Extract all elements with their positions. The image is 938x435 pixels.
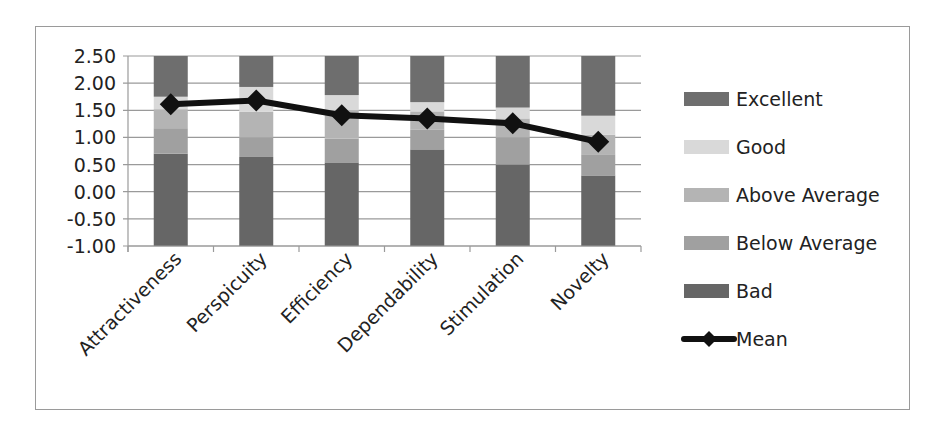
legend-label: Below Average <box>736 232 877 254</box>
bar-attractiveness <box>154 56 188 246</box>
bar-segment-excellent <box>239 56 273 87</box>
y-axis-tick-labels: 2.502.001.501.000.500.00-0.50-1.00 <box>67 45 116 257</box>
mean-line <box>171 101 599 142</box>
gridlines <box>123 56 641 252</box>
bar-segment-excellent <box>496 56 530 108</box>
legend-swatch-icon <box>684 140 729 154</box>
y-tick-label: 1.50 <box>74 99 116 121</box>
bar-efficiency <box>325 56 359 246</box>
bar-segment-below-average <box>325 139 359 163</box>
bar-segment-excellent <box>581 56 615 116</box>
chart-legend: ExcellentGoodAbove AverageBelow AverageB… <box>684 88 880 350</box>
category-label: Efficiency <box>276 247 356 327</box>
bar-segment-below-average <box>239 137 273 157</box>
chart-canvas: 2.502.001.501.000.500.00-0.50-1.00 Attra… <box>36 27 911 411</box>
y-tick-label: -0.50 <box>67 208 116 230</box>
category-label: Attractiveness <box>73 247 185 359</box>
y-tick-label: 1.00 <box>74 126 116 148</box>
bar-segment-bad <box>581 175 615 246</box>
bar-segment-below-average <box>496 137 530 164</box>
bar-perspicuity <box>239 56 273 246</box>
legend-item-good: Good <box>684 136 786 158</box>
bar-dependability <box>410 56 444 246</box>
legend-label: Excellent <box>736 88 823 110</box>
legend-label: Mean <box>736 328 788 350</box>
legend-label: Above Average <box>736 184 880 206</box>
bar-segment-excellent <box>154 56 188 97</box>
y-tick-label: 2.00 <box>74 72 116 94</box>
bar-stimulation <box>496 56 530 246</box>
y-tick-label: -1.00 <box>67 235 116 257</box>
legend-label: Bad <box>736 280 773 302</box>
category-label: Novelty <box>546 247 613 314</box>
x-axis <box>128 246 641 252</box>
mean-line-series <box>160 90 610 153</box>
bar-segment-above-average <box>239 112 273 138</box>
legend-label: Good <box>736 136 786 158</box>
legend-swatch-icon <box>684 284 729 298</box>
bar-segment-below-average <box>154 128 188 154</box>
legend-diamond-icon <box>701 331 717 347</box>
bar-segment-below-average <box>410 130 444 150</box>
category-label: Perspicuity <box>182 247 271 336</box>
legend-swatch-icon <box>684 236 729 250</box>
stacked-bars <box>154 56 616 246</box>
legend-swatch-icon <box>684 92 729 106</box>
legend-item-excellent: Excellent <box>684 88 823 110</box>
bar-segment-bad <box>325 162 359 246</box>
y-tick-label: 0.50 <box>74 154 116 176</box>
y-tick-label: 0.00 <box>74 181 116 203</box>
bar-segment-excellent <box>325 56 359 95</box>
legend-swatch-icon <box>684 188 729 202</box>
legend-item-bad: Bad <box>684 280 773 302</box>
category-label: Stimulation <box>435 247 527 339</box>
bar-segment-bad <box>154 154 188 246</box>
legend-item-below-average: Below Average <box>684 232 877 254</box>
legend-item-above-average: Above Average <box>684 184 880 206</box>
bar-segment-bad <box>239 157 273 246</box>
chart-frame: 2.502.001.501.000.500.00-0.50-1.00 Attra… <box>35 26 910 410</box>
y-tick-label: 2.50 <box>74 45 116 67</box>
bar-segment-bad <box>496 165 530 246</box>
bar-segment-bad <box>410 149 444 246</box>
bar-segment-below-average <box>581 154 615 175</box>
x-axis-category-labels: AttractivenessPerspicuityEfficiencyDepen… <box>73 247 613 359</box>
bar-segment-excellent <box>410 56 444 102</box>
legend-item-mean: Mean <box>684 328 788 350</box>
